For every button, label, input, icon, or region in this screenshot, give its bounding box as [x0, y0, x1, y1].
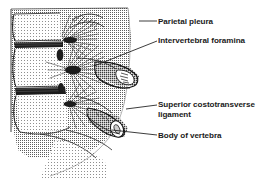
anatomy-illustration: [0, 0, 268, 179]
label-line-2: ligament: [158, 110, 191, 119]
label-body-of-vertebra: Body of vertebra: [158, 131, 222, 141]
label-superior-costotransverse-ligament: Superior costotransverseligament: [158, 100, 255, 119]
label-intervertebral-foramina: Intervertebral foramina: [158, 36, 245, 46]
label-line-1: Superior costotransverse: [158, 100, 255, 109]
intervertebral-disc-upper: [14, 42, 63, 49]
label-parietal-pleura: Parietal pleura: [158, 17, 213, 27]
leader-ligament: [126, 105, 157, 109]
anatomical-figure: Parietal pleura Intervertebral foramina …: [0, 0, 268, 179]
